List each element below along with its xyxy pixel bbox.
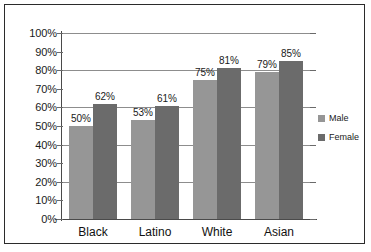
- bar-value-label: 85%: [274, 49, 308, 59]
- y-axis-tick-right: [310, 33, 316, 34]
- y-axis-tick-right: [310, 70, 316, 71]
- chart-legend: MaleFemale: [318, 113, 364, 151]
- y-axis-tick-label: 100%: [11, 28, 57, 38]
- y-axis-tick-label: 60%: [11, 102, 57, 112]
- x-axis-line: [55, 219, 317, 220]
- bar-value-labels: 50%62%53%61%75%81%79%85%: [62, 33, 310, 219]
- chart-frame: 0%10%20%30%40%50%60%70%80%90%100% 50%62%…: [4, 4, 365, 244]
- x-axis-label-latino: Latino: [124, 225, 186, 239]
- y-axis-tick-label: 70%: [11, 84, 57, 94]
- legend-swatch-icon: [318, 115, 325, 122]
- legend-label: Male: [329, 113, 349, 123]
- y-axis-tick-labels: 0%10%20%30%40%50%60%70%80%90%100%: [7, 33, 57, 219]
- y-axis-tick-right: [310, 182, 316, 183]
- bar-value-label: 79%: [250, 60, 284, 70]
- legend-label: Female: [329, 132, 359, 142]
- y-axis-tick-right: [310, 107, 316, 108]
- legend-swatch-icon: [318, 134, 325, 141]
- bar-value-label: 50%: [64, 114, 98, 124]
- y-axis-tick-label: 50%: [11, 121, 57, 131]
- bar-value-label: 81%: [212, 56, 246, 66]
- bar-value-label: 62%: [88, 92, 122, 102]
- y-axis-tick-label: 10%: [11, 195, 57, 205]
- legend-item-female[interactable]: Female: [318, 132, 364, 142]
- y-axis-tick-label: 90%: [11, 47, 57, 57]
- bar-value-label: 53%: [126, 108, 160, 118]
- y-axis-tick-right: [310, 145, 316, 146]
- x-axis-label-white: White: [186, 225, 248, 239]
- bar-value-label: 61%: [150, 94, 184, 104]
- plot-area: 50%62%53%61%75%81%79%85%: [62, 33, 310, 219]
- y-axis-tick-label: 0%: [11, 214, 57, 224]
- legend-item-male[interactable]: Male: [318, 113, 364, 123]
- y-axis-tick-right: [310, 219, 316, 220]
- bar-value-label: 75%: [188, 68, 222, 78]
- y-axis-tick: [57, 219, 63, 220]
- x-axis-label-black: Black: [62, 225, 124, 239]
- y-axis-tick-label: 80%: [11, 65, 57, 75]
- x-axis-category-labels: BlackLatinoWhiteAsian: [62, 225, 310, 243]
- x-axis-label-asian: Asian: [248, 225, 310, 239]
- y-axis-tick-label: 40%: [11, 140, 57, 150]
- y-axis-tick-label: 20%: [11, 177, 57, 187]
- y-axis-tick-label: 30%: [11, 158, 57, 168]
